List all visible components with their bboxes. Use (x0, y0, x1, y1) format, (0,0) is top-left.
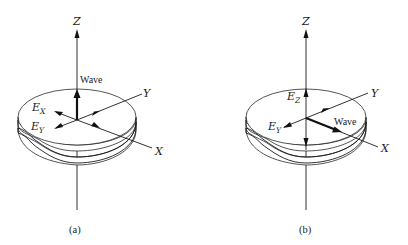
panel-a: Z Wave Y X E X E Y (a) (18, 15, 164, 236)
panel-b: Z Y X Wave E Z E Y (b) (246, 15, 390, 236)
x-axis-label-b: X (380, 142, 390, 155)
svg-text:E: E (30, 120, 39, 133)
x-axis-label-a: X (154, 145, 164, 158)
svg-text:E: E (286, 90, 295, 103)
svg-text:Z: Z (294, 96, 301, 105)
svg-text:E: E (31, 101, 40, 114)
figure-canvas: Z Wave Y X E X E Y (a) (0, 0, 408, 245)
z-axis-label-b: Z (301, 15, 310, 28)
caption-a: (a) (69, 224, 81, 236)
wave-label-a: Wave (80, 74, 103, 85)
z-arrowhead-icon (75, 29, 80, 38)
z-axis-label-a: Z (72, 15, 81, 28)
svg-text:E: E (267, 120, 276, 133)
y-axis-label-b: Y (371, 87, 380, 100)
caption-b: (b) (299, 224, 312, 236)
z-arrowhead-icon (304, 29, 309, 38)
wave-label-b: Wave (334, 116, 357, 127)
svg-text:X: X (39, 107, 46, 116)
y-axis-label-a: Y (143, 87, 152, 100)
